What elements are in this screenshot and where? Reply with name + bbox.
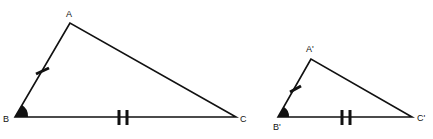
angle-b-mark — [15, 105, 28, 117]
triangles-diagram: A B C A' B' C' — [0, 0, 433, 139]
angle-b-prime-mark — [278, 107, 289, 117]
label-a: A — [66, 9, 72, 19]
triangle-abc — [15, 23, 236, 125]
label-b: B — [3, 114, 9, 124]
triangle-a-prime — [278, 59, 412, 125]
label-b-prime: B' — [273, 122, 281, 132]
label-c-prime: C' — [417, 113, 425, 123]
label-c: C — [240, 114, 247, 124]
label-a-prime: A' — [306, 44, 314, 54]
